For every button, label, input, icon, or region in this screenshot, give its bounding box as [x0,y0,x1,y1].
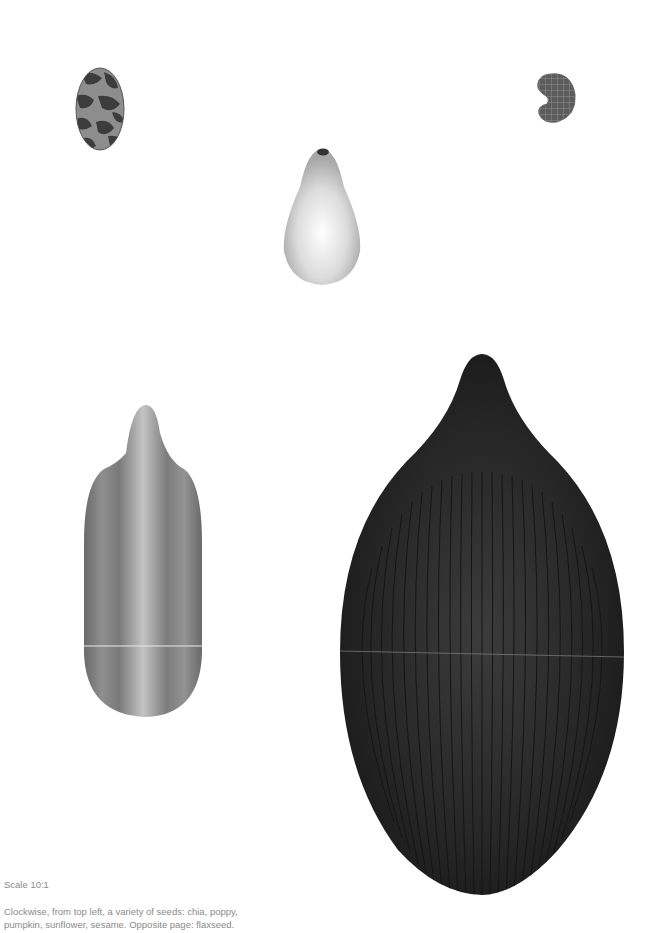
chia-seed-illustration [72,66,128,152]
scale-label: Scale 10:1 [4,878,49,891]
caption-line-1: Clockwise, from top left, a variety of s… [4,905,344,918]
figure-caption: Clockwise, from top left, a variety of s… [4,905,344,931]
pumpkin-seed-illustration [280,147,364,287]
caption-line-2: pumpkin, sunflower, sesame. Opposite pag… [4,918,344,931]
sesame-seed-illustration [338,352,626,897]
poppy-seed-illustration [533,72,577,124]
sunflower-seed-illustration [82,403,206,719]
